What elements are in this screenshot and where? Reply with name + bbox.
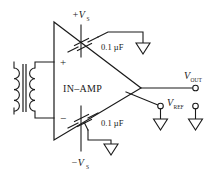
in-amp-block-label: IN–AMP [63,83,102,94]
circuit-diagram-canvas: IN–AMP + − +V S −V S 0.1 µF 0.1 µF V OUT… [0,0,217,176]
v-out-label-subscript: OUT [191,77,203,83]
output-branch [141,85,198,91]
transformer-primary-winding [14,68,19,111]
input-plus-label: + [60,56,66,68]
top-cap-lead-lower-left [68,47,78,52]
transformer-secondary-bottom-lead [35,111,54,118]
in-amp-body [54,22,141,140]
v-ref-label: V REF [167,97,184,110]
bottom-decoupling-cap-value: 0.1 µF [101,118,124,128]
output-return-terminal-node [193,103,199,109]
v-ref-label-subscript: REF [174,104,184,110]
v-ref-wire [126,92,158,105]
ground-top-cap [136,43,150,54]
v-out-terminal-node [193,85,199,91]
positive-supply-label-text: +V [72,9,87,20]
v-ref-terminal-node [158,103,164,109]
transformer-secondary-top-lead [35,62,54,68]
ground-symbol-glyph [136,43,150,54]
bottom-cap-ground-stub [85,123,89,130]
positive-supply-label: +V S [72,9,90,22]
input-minus-label: − [60,112,66,124]
circuit-schematic-svg: IN–AMP + − +V S −V S 0.1 µF 0.1 µF V OUT… [0,0,217,176]
v-ref-branch [126,92,168,130]
positive-supply-label-subscript: S [87,16,90,22]
v-out-label: V OUT [184,70,202,83]
ground-output-return [189,103,203,130]
in-amp-triangle [54,22,141,140]
positive-supply-branch [68,25,150,57]
ground-vref [154,119,168,130]
bottom-cap-to-ground-wire [88,130,111,144]
negative-supply-label: −V S [71,157,89,170]
ground-symbol-glyph [154,119,168,130]
negative-supply-label-subscript: S [86,164,89,170]
top-cap-lead-upper-right [88,37,98,42]
ground-bottom-cap [104,144,118,155]
top-decoupling-cap-value: 0.1 µF [101,42,124,52]
ground-symbol-glyph [104,144,118,155]
negative-supply-label-text: −V [71,157,86,168]
input-transformer [14,62,54,118]
ground-symbol-glyph [189,119,203,130]
transformer-secondary-winding [30,68,35,111]
negative-supply-branch [68,106,118,155]
